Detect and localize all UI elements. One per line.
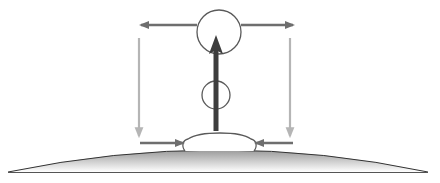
diagram-canvas (0, 0, 440, 183)
ground-surface (8, 150, 428, 173)
dome-shape (183, 133, 256, 151)
plume-diagram (0, 0, 440, 183)
